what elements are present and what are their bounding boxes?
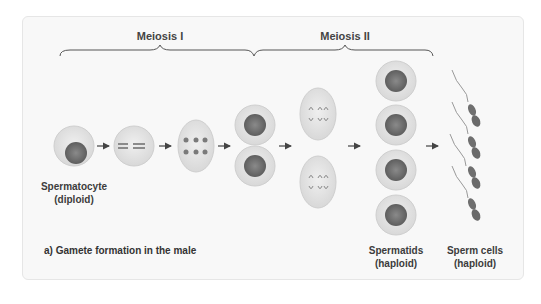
spermatids-label: Spermatids (haploid) [364, 244, 428, 270]
spermatocyte-ploidy: (diploid) [36, 193, 112, 206]
meiosis-i-title: Meiosis I [130, 30, 190, 42]
spermatid [376, 105, 416, 145]
sperm-cell [452, 102, 482, 160]
meiosis-i-brace [60, 45, 254, 56]
spermatocyte-cell [54, 126, 94, 166]
sperm-cell [452, 70, 482, 128]
spermatids-name: Spermatids [364, 244, 428, 257]
sperm-cell [452, 166, 482, 222]
meiosis-ii-cell-top [300, 88, 336, 140]
sperm-cell [450, 134, 482, 190]
meiosis-ii-title: Meiosis II [312, 30, 378, 42]
meiosis-ii-brace [254, 45, 433, 56]
anaphase-i-cell [178, 120, 214, 172]
secondary-spermatocyte-top [235, 105, 275, 145]
metaphase-i-cell [114, 126, 154, 166]
sperm-cells-label: Sperm cells (haploid) [440, 244, 510, 270]
spermatocyte-label: Spermatocyte (diploid) [36, 180, 112, 206]
spermatids-ploidy: (haploid) [364, 257, 428, 270]
spermatocyte-name: Spermatocyte [36, 180, 112, 193]
meiosis-ii-cell-bottom [300, 156, 336, 208]
spermatid [376, 61, 416, 101]
figure-caption: a) Gamete formation in the male [44, 245, 196, 256]
spermatid [376, 150, 416, 190]
secondary-spermatocyte-bottom [235, 146, 275, 186]
sperm-cells-ploidy: (haploid) [440, 257, 510, 270]
sperm-cells-name: Sperm cells [440, 244, 510, 257]
spermatid [376, 195, 416, 235]
